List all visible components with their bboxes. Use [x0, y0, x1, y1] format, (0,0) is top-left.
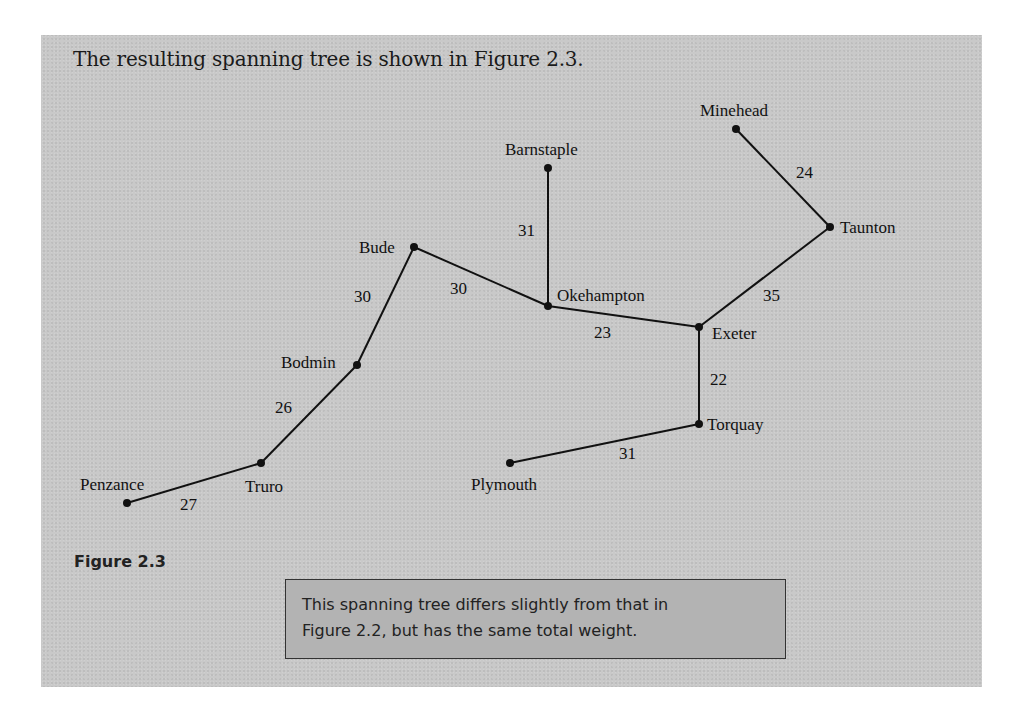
weight-minehead-taunton: 24 — [796, 163, 814, 182]
note-line-2: Figure 2.2, but has the same total weigh… — [302, 618, 769, 644]
node-plymouth — [506, 459, 514, 467]
label-okehampton: Okehampton — [557, 286, 645, 305]
edge-bude-bodmin — [357, 247, 414, 365]
edge-okehampton-exeter — [548, 306, 699, 327]
note-line-1: This spanning tree differs slightly from… — [302, 592, 769, 618]
node-bude — [410, 243, 418, 251]
label-penzance: Penzance — [80, 475, 144, 494]
node-bodmin — [353, 361, 361, 369]
edges — [127, 129, 830, 503]
note-box: This spanning tree differs slightly from… — [285, 579, 786, 659]
label-bodmin: Bodmin — [281, 353, 336, 372]
label-barnstaple: Barnstaple — [505, 140, 578, 159]
weight-torquay-plymouth: 31 — [619, 444, 636, 463]
weight-taunton-exeter: 35 — [763, 286, 780, 305]
edge-minehead-taunton — [736, 129, 830, 227]
node-minehead — [732, 125, 740, 133]
label-minehead: Minehead — [700, 101, 768, 120]
label-taunton: Taunton — [840, 218, 896, 237]
weight-okehampton-exeter: 23 — [594, 323, 611, 342]
label-torquay: Torquay — [707, 415, 764, 434]
edge-torquay-plymouth — [510, 424, 699, 463]
weight-bodmin-truro: 26 — [275, 398, 292, 417]
node-torquay — [695, 420, 703, 428]
label-truro: Truro — [245, 477, 283, 496]
node-barnstaple — [544, 164, 552, 172]
node-penzance — [123, 499, 131, 507]
label-bude: Bude — [359, 238, 395, 257]
weight-barnstaple-okehampton: 31 — [518, 221, 535, 240]
edge-taunton-exeter — [699, 227, 830, 327]
weight-truro-penzance: 27 — [180, 495, 198, 514]
figure-caption: Figure 2.3 — [74, 552, 166, 571]
nodes — [123, 125, 834, 507]
node-exeter — [695, 323, 703, 331]
weight-bude-bodmin: 30 — [354, 287, 371, 306]
edge-bude-okehampton — [414, 247, 548, 306]
node-taunton — [826, 223, 834, 231]
label-exeter: Exeter — [712, 324, 757, 343]
label-plymouth: Plymouth — [471, 475, 538, 494]
node-truro — [257, 459, 265, 467]
weight-exeter-torquay: 22 — [710, 370, 727, 389]
node-okehampton — [544, 302, 552, 310]
weight-bude-okehampton: 30 — [450, 279, 467, 298]
